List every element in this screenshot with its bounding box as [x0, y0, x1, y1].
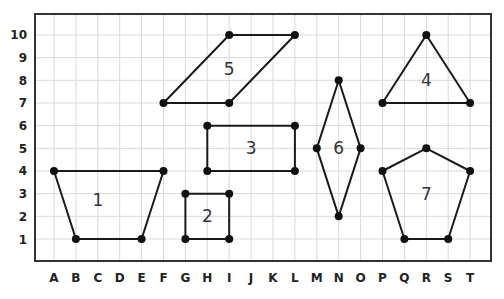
- vertex-dot: [225, 31, 233, 39]
- x-axis-labels: ABCDEFGHIJKLMNOPQRST: [49, 271, 475, 285]
- vertex-dot: [400, 235, 408, 243]
- x-axis-label: G: [180, 271, 190, 285]
- trapezoid-outline: [54, 171, 164, 239]
- vertex-dot: [379, 99, 387, 107]
- x-axis-label: K: [268, 271, 278, 285]
- vertex-dot: [225, 235, 233, 243]
- vertex-dot: [335, 212, 343, 220]
- x-axis-label: C: [93, 271, 102, 285]
- x-axis-label: M: [311, 271, 323, 285]
- x-axis-label: F: [159, 271, 167, 285]
- x-axis-label: R: [422, 271, 431, 285]
- coordinate-grid-diagram: 12345678910 ABCDEFGHIJKLMNOPQRST 1234567: [0, 0, 504, 299]
- y-axis-label: 2: [19, 210, 27, 224]
- y-axis-label: 10: [10, 28, 27, 42]
- x-axis-label: D: [115, 271, 125, 285]
- vertex-dot: [181, 190, 189, 198]
- vertex-dot: [203, 167, 211, 175]
- plot-border: [35, 14, 491, 261]
- x-axis-label: I: [227, 271, 231, 285]
- x-axis-label: B: [71, 271, 80, 285]
- vertex-dot: [357, 144, 365, 152]
- x-axis-label: T: [466, 271, 475, 285]
- x-axis-label: S: [444, 271, 453, 285]
- vertex-dot: [50, 167, 58, 175]
- x-axis-label: N: [334, 271, 344, 285]
- grid-lines: [35, 14, 491, 261]
- y-axis-label: 9: [19, 51, 27, 65]
- vertex-dot: [422, 144, 430, 152]
- vertex-dot: [313, 144, 321, 152]
- y-axis-label: 1: [19, 233, 27, 247]
- vertex-dot: [466, 167, 474, 175]
- x-axis-label: A: [49, 271, 59, 285]
- vertex-dot: [72, 235, 80, 243]
- vertex-dot: [335, 76, 343, 84]
- y-axis-label: 8: [19, 74, 27, 88]
- x-axis-label: P: [378, 271, 387, 285]
- shape-number-label: 4: [421, 70, 432, 90]
- shape-number-label: 6: [333, 138, 344, 158]
- vertex-dot: [160, 99, 168, 107]
- x-axis-label: E: [137, 271, 145, 285]
- vertex-dot: [444, 235, 452, 243]
- shape-number-label: 7: [421, 184, 432, 204]
- vertex-dot: [138, 235, 146, 243]
- vertex-dot: [466, 99, 474, 107]
- y-axis-label: 3: [19, 187, 27, 201]
- vertex-dot: [160, 167, 168, 175]
- vertex-dot: [291, 122, 299, 130]
- y-axis-label: 6: [19, 119, 27, 133]
- vertex-dot: [291, 31, 299, 39]
- vertex-dot: [291, 167, 299, 175]
- vertex-dot: [225, 190, 233, 198]
- shape-number-label: 3: [246, 138, 257, 158]
- shape-1-trapezoid: 1: [50, 167, 168, 243]
- shape-number-label: 1: [92, 190, 103, 210]
- x-axis-label: L: [291, 271, 299, 285]
- x-axis-label: O: [355, 271, 365, 285]
- vertex-dot: [181, 235, 189, 243]
- grid-canvas: 12345678910 ABCDEFGHIJKLMNOPQRST 1234567: [0, 0, 504, 299]
- y-axis-label: 4: [19, 164, 27, 178]
- y-axis-labels: 12345678910: [10, 28, 27, 246]
- y-axis-label: 7: [19, 96, 27, 110]
- shape-number-label: 2: [202, 206, 213, 226]
- vertex-dot: [422, 31, 430, 39]
- y-axis-label: 5: [19, 142, 27, 156]
- x-axis-label: J: [248, 271, 253, 285]
- x-axis-label: H: [202, 271, 212, 285]
- shape-number-label: 5: [224, 59, 235, 79]
- vertex-dot: [203, 122, 211, 130]
- vertex-dot: [225, 99, 233, 107]
- vertex-dot: [379, 167, 387, 175]
- shapes: 1234567: [50, 31, 474, 243]
- x-axis-label: Q: [399, 271, 409, 285]
